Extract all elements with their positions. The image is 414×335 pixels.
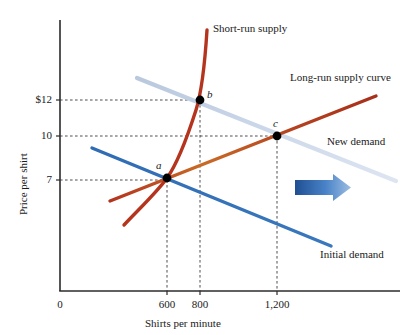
y-tick-label-10: 10 [10,130,52,141]
x-tick-label-1200: 1,200 [254,299,300,310]
curve-label-short-run-supply: Short-run supply [213,23,287,34]
x-tick-label-0: 0 [46,299,74,310]
curve-label-new-demand: New demand [327,136,385,147]
y-tick-label-7: 7 [10,174,52,185]
curve-label-long-run-supply: Long-run supply curve [290,72,391,83]
point-label-c: c [273,118,278,129]
point-b [196,96,205,105]
x-axis-title: Shirts per minute [145,318,221,329]
demand-shift-arrow-icon [295,174,351,201]
chart-canvas [0,0,414,335]
curve-short-run-supply [124,30,207,225]
point-c [273,132,282,141]
point-label-a: a [156,160,162,171]
guide-lines [60,100,277,291]
x-tick-label-800: 800 [181,299,219,310]
point-label-b: b [207,89,213,100]
y-tick-label-12: $12 [10,94,52,105]
point-a [163,174,172,183]
curve-label-initial-demand: Initial demand [320,249,384,260]
supply-demand-chart: Price per shirt $12 10 7 0 600 800 1,200… [0,0,414,335]
